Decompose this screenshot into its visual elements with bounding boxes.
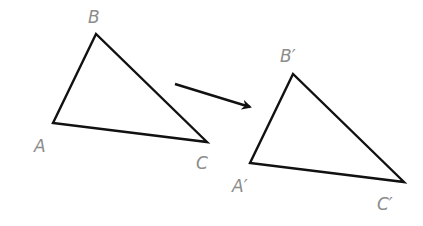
vertex-label-a: A bbox=[33, 136, 46, 156]
vertex-label-c: C bbox=[196, 153, 208, 173]
vertex-label-b-prime: B′ bbox=[280, 46, 296, 66]
triangle-abc: A B C bbox=[33, 7, 208, 173]
translation-arrow bbox=[175, 84, 250, 107]
translation-diagram: A B C A′ B′ C′ bbox=[0, 0, 423, 226]
vertex-label-a-prime: A′ bbox=[231, 176, 248, 196]
triangle-a-prime-b-prime-c-prime: A′ B′ C′ bbox=[231, 46, 404, 214]
vertex-label-c-prime: C′ bbox=[377, 194, 393, 214]
vertex-label-b: B bbox=[88, 7, 100, 27]
triangle-abc-shape bbox=[53, 34, 207, 142]
triangle-image-shape bbox=[250, 74, 404, 182]
